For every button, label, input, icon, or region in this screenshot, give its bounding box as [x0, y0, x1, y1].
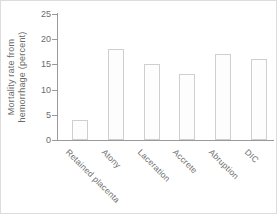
y-tick-label: 0 [29, 135, 51, 145]
y-axis-title-line2: hemorrhage (percent) [17, 12, 28, 142]
y-tick-mark [52, 39, 57, 40]
y-tick-label: 5 [29, 110, 51, 120]
x-tick-label: Laceration [135, 147, 172, 184]
y-axis-title-line1: Mortality rate from [6, 12, 17, 142]
x-tick-label: Abruption [207, 147, 241, 181]
bar [179, 74, 195, 140]
y-tick-label: 20 [29, 34, 51, 44]
chart-figure: Mortality rate from hemorrhage (percent)… [0, 0, 277, 214]
bar [72, 120, 88, 140]
y-tick-label: 15 [29, 59, 51, 69]
x-tick-label: DIC [243, 147, 261, 165]
bar [108, 49, 124, 140]
y-tick-label: 10 [29, 85, 51, 95]
bar [251, 59, 267, 140]
y-tick-mark [52, 115, 57, 116]
bar [144, 64, 160, 140]
y-tick-mark [52, 140, 57, 141]
x-tick-label: Accrete [171, 147, 199, 175]
y-tick-mark [52, 14, 57, 15]
y-axis-line [57, 13, 58, 141]
y-tick-mark [52, 64, 57, 65]
y-tick-label: 25 [29, 9, 51, 19]
y-axis-title: Mortality rate from hemorrhage (percent) [6, 12, 28, 142]
x-tick-label: Atony [100, 147, 123, 170]
x-axis-line [57, 140, 274, 141]
bar [215, 54, 231, 140]
y-tick-mark [52, 90, 57, 91]
